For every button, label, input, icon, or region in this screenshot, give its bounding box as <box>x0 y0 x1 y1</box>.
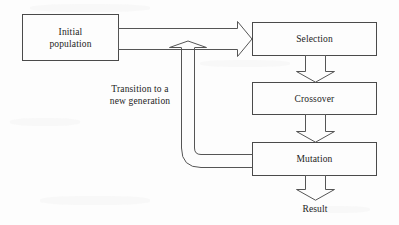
edge-arrow-selection-to-crossover <box>297 56 335 83</box>
node-box-initial-population <box>23 15 119 61</box>
node-box-selection <box>253 23 377 56</box>
edge-arrow-crossover-to-mutation <box>297 115 335 143</box>
edge-arrow-initial-to-selection <box>119 22 253 57</box>
edge-arrow-mutation-to-result <box>297 176 335 201</box>
edge-arrow-feedback-outer <box>182 48 253 168</box>
edge-arrow-feedback-inner <box>195 48 253 155</box>
genetic-algorithm-flowchart: Initial population Selection Crossover M… <box>0 0 399 225</box>
node-box-mutation <box>253 143 377 176</box>
node-box-crossover <box>253 83 377 115</box>
